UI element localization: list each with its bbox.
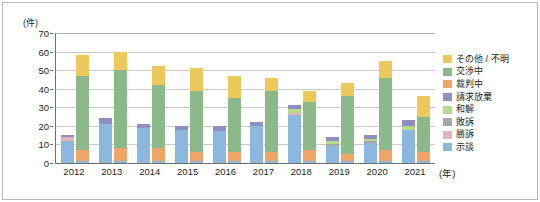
chart-figure: (件) 010203040506070 20122013201420152016… [2, 2, 538, 200]
bar-segment[interactable] [265, 161, 278, 163]
bar-segment[interactable] [228, 76, 241, 98]
bar-segment[interactable] [364, 135, 377, 139]
x-axis-tick-label: 2018 [291, 166, 312, 177]
bar-segment[interactable] [303, 150, 316, 161]
bar-segment[interactable] [402, 126, 415, 130]
bar-segment[interactable] [76, 150, 89, 161]
bar-segment[interactable] [379, 161, 392, 163]
bar-segment[interactable] [265, 78, 278, 91]
bar-segment[interactable] [114, 70, 127, 148]
legend-item-label: 敗訴 [456, 118, 474, 127]
bar-segment[interactable] [76, 55, 89, 75]
legend-swatch-icon [443, 106, 452, 114]
bar-group [321, 33, 359, 163]
legend-item[interactable]: 勝訴 [443, 129, 535, 142]
bar-segment[interactable] [61, 135, 74, 137]
bar-segment[interactable] [250, 122, 263, 126]
bar-segment[interactable] [152, 161, 165, 163]
bar-segment[interactable] [288, 115, 301, 163]
bar-segment[interactable] [265, 91, 278, 152]
legend-item-label: その他 / 不明 [456, 55, 509, 64]
legend-item[interactable]: 請求放棄 [443, 91, 535, 104]
bar-segment[interactable] [303, 161, 316, 163]
bar-segment[interactable] [364, 139, 377, 141]
bar-segment[interactable] [326, 141, 339, 145]
bar-group [208, 33, 246, 163]
bar-segment[interactable] [114, 52, 127, 71]
bar-segment[interactable] [250, 126, 263, 163]
bar-segment[interactable] [341, 161, 354, 163]
bar-segment[interactable] [114, 148, 127, 161]
x-axis-tick-label: 2019 [329, 166, 350, 177]
legend-item[interactable]: 和解 [443, 103, 535, 116]
bar-segment[interactable] [175, 130, 188, 163]
bar-segment[interactable] [99, 124, 112, 163]
legend-item[interactable]: その他 / 不明 [443, 53, 535, 66]
bar-segment[interactable] [228, 152, 241, 161]
y-axis-tick-mark [50, 144, 53, 145]
bar-segment[interactable] [152, 66, 165, 85]
legend-item-label: 請求放棄 [456, 93, 492, 102]
bar-segment[interactable] [417, 161, 430, 163]
bar-segment[interactable] [379, 78, 392, 150]
bar-segment[interactable] [190, 91, 203, 152]
bar-segment[interactable] [402, 130, 415, 163]
bar-segment[interactable] [417, 152, 430, 161]
bar-segment[interactable] [326, 144, 339, 146]
bar-segment[interactable] [61, 141, 74, 163]
bar-segment[interactable] [228, 161, 241, 163]
bar-segment[interactable] [326, 146, 339, 163]
bar-group [56, 33, 94, 163]
bar-segment[interactable] [402, 120, 415, 126]
bar-segment[interactable] [288, 113, 301, 115]
y-axis-tick-mark [50, 126, 53, 127]
legend-swatch-icon [443, 93, 452, 101]
plot-area [55, 33, 435, 164]
legend-item[interactable]: 交渉中 [443, 66, 535, 79]
bar-segment[interactable] [61, 137, 74, 141]
bar-segment[interactable] [364, 141, 377, 143]
bar-segment[interactable] [76, 76, 89, 150]
bar-segment[interactable] [303, 91, 316, 102]
bar-segment[interactable] [137, 128, 150, 163]
bar-segment[interactable] [114, 161, 127, 163]
bar-segment[interactable] [175, 126, 188, 130]
bar-segment[interactable] [137, 124, 150, 128]
bar-group [397, 33, 435, 163]
bar-segment[interactable] [213, 126, 226, 132]
bar-segment[interactable] [379, 150, 392, 161]
bar-segment[interactable] [417, 96, 430, 116]
bar-segment[interactable] [341, 154, 354, 161]
legend-swatch-icon [443, 55, 452, 63]
bar-segment[interactable] [213, 131, 226, 163]
legend-item[interactable]: 裁判中 [443, 78, 535, 91]
bar-segment[interactable] [303, 102, 316, 150]
bar-segment[interactable] [190, 161, 203, 163]
bar-segment[interactable] [288, 109, 301, 113]
bar-group [359, 33, 397, 163]
bar-segment[interactable] [265, 152, 278, 161]
legend-item-label: 勝訴 [456, 130, 474, 139]
bar-segment[interactable] [190, 68, 203, 90]
bar-segment[interactable] [288, 105, 301, 109]
bar-segment[interactable] [76, 161, 89, 163]
y-axis-tick-mark [50, 52, 53, 53]
bar-segment[interactable] [341, 96, 354, 154]
legend-swatch-icon [443, 131, 452, 139]
x-axis-tick-labels: 2012201320142015201620172018201920202021 [55, 166, 435, 182]
legend-item[interactable]: 敗訴 [443, 116, 535, 129]
bar-segment[interactable] [341, 83, 354, 96]
bar-segment[interactable] [190, 152, 203, 161]
bar-segment[interactable] [152, 85, 165, 148]
bar-segment[interactable] [152, 148, 165, 161]
bar-segment[interactable] [417, 117, 430, 152]
bar-segment[interactable] [364, 143, 377, 163]
bar-segment[interactable] [326, 137, 339, 141]
bar-segment[interactable] [99, 118, 112, 124]
legend-item[interactable]: 示談 [443, 141, 535, 154]
legend-swatch-icon [443, 118, 452, 126]
bar-segment[interactable] [379, 61, 392, 78]
bar-segment[interactable] [228, 98, 241, 152]
y-axis-tick-label: 70 [38, 28, 49, 39]
y-axis-tick-mark [50, 33, 53, 34]
